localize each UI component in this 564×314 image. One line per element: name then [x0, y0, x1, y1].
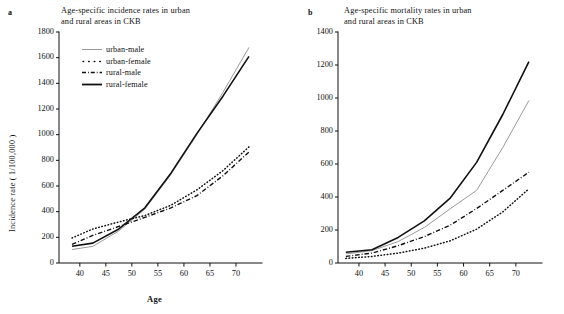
- legend-item-urban-female[interactable]: urban-female: [82, 56, 151, 68]
- legend-label-urban-female: urban-female: [106, 56, 151, 68]
- y-tick-label: 600: [23, 181, 54, 190]
- y-tick-label: 800: [23, 155, 54, 164]
- panel-letter-a: a: [8, 8, 12, 17]
- legend-item-urban-male[interactable]: urban-male: [82, 44, 151, 56]
- legend-label-rural-male: rural-male: [106, 67, 141, 79]
- x-tick-label: 70: [224, 269, 248, 278]
- chart-panel-a: a Age-specific incidence rates in urban …: [0, 0, 282, 314]
- legend-swatch-rural-female: [82, 80, 102, 89]
- legend-item-rural-female[interactable]: rural-female: [82, 79, 151, 91]
- x-tick-label: 65: [198, 269, 222, 278]
- x-tick-label: 60: [452, 269, 476, 278]
- y-tick-label: 200: [302, 225, 333, 234]
- y-tick-label: 1200: [302, 60, 333, 69]
- y-tick-label: 1600: [23, 52, 54, 61]
- legend-label-urban-male: urban-male: [106, 44, 144, 56]
- legend-item-rural-male[interactable]: rural-male: [82, 67, 151, 79]
- y-tick-label: 0: [23, 258, 54, 267]
- x-tick-label: 40: [68, 269, 92, 278]
- legend-label-rural-female: rural-female: [106, 79, 148, 91]
- legend-swatch-rural-male: [82, 68, 102, 77]
- figure-caption-clipped: [36, 306, 536, 314]
- x-tick-label: 70: [504, 269, 528, 278]
- y-tick-label: 1200: [23, 104, 54, 113]
- y-tick-label: 400: [302, 192, 333, 201]
- chart-title-b: Age-specific mortality rates in urban an…: [344, 6, 559, 27]
- panel-letter-b: b: [308, 8, 312, 17]
- legend-swatch-urban-male: [82, 45, 102, 54]
- chart-panel-b: b Age-specific mortality rates in urban …: [282, 0, 564, 314]
- y-tick-label: 600: [302, 159, 333, 168]
- y-tick-label: 0: [302, 258, 333, 267]
- y-tick-label: 800: [302, 126, 333, 135]
- figure-root: a Age-specific incidence rates in urban …: [0, 0, 564, 314]
- legend-swatch-urban-female: [82, 57, 102, 66]
- x-tick-label: 50: [120, 269, 144, 278]
- y-tick-label: 1400: [302, 27, 333, 36]
- x-tick-label: 55: [425, 269, 449, 278]
- legend-a: urban-male urban-female rural-male rural…: [82, 44, 151, 90]
- y-axis-label-a: Incidence rate ( 1/100,000 ): [8, 134, 17, 232]
- y-tick-label: 400: [23, 206, 54, 215]
- x-tick-label: 50: [399, 269, 423, 278]
- y-tick-label: 1000: [23, 129, 54, 138]
- x-tick-label: 65: [478, 269, 502, 278]
- plot-area-b: [282, 0, 564, 314]
- y-tick-label: 1800: [23, 27, 54, 36]
- x-tick-label: 55: [146, 269, 170, 278]
- chart-title-a: Age-specific incidence rates in urban an…: [61, 6, 276, 27]
- y-tick-label: 1000: [302, 93, 333, 102]
- y-tick-label: 1400: [23, 78, 54, 87]
- x-tick-label: 45: [373, 269, 397, 278]
- x-tick-label: 45: [94, 269, 118, 278]
- x-tick-label: 60: [172, 269, 196, 278]
- y-tick-label: 200: [23, 232, 54, 241]
- x-tick-label: 40: [347, 269, 371, 278]
- x-axis-label-a: Age: [147, 294, 162, 304]
